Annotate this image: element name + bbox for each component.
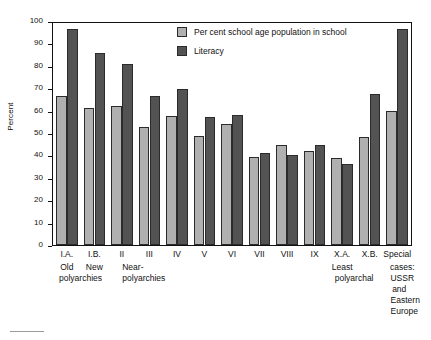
y-axis-tick-label: 20	[34, 195, 43, 204]
y-axis-tick-label: 50	[34, 128, 43, 137]
bar	[221, 124, 232, 245]
bar	[84, 108, 95, 245]
bar	[166, 116, 177, 245]
legend-swatch-series0	[177, 27, 187, 37]
legend-item: Literacy	[177, 43, 387, 59]
y-axis-tick-label: 0	[39, 240, 43, 249]
y-axis-tick-label: 10	[34, 218, 43, 227]
x-axis-tick-label: Special	[377, 249, 417, 259]
bar	[287, 155, 298, 245]
y-axis-tick-label: 100	[30, 16, 43, 25]
bar-group	[108, 23, 136, 245]
y-axis-tick-label: 30	[34, 173, 43, 182]
y-axis-tick-label: 40	[34, 150, 43, 159]
bar	[194, 136, 205, 245]
bar	[331, 158, 342, 245]
bar	[304, 151, 315, 245]
x-axis-caption: Europe	[391, 306, 418, 317]
x-axis-caption: USSR	[390, 273, 414, 284]
legend-label: Per cent school age population in school	[194, 27, 347, 37]
bar	[150, 96, 161, 245]
bar	[260, 153, 271, 245]
bar	[177, 89, 188, 246]
legend-item: Per cent school age population in school	[177, 24, 387, 40]
bar	[386, 111, 397, 245]
bar	[370, 94, 381, 245]
chart-figure: Percent 0102030405060708090100 Per cent …	[0, 0, 431, 340]
bar	[111, 106, 122, 245]
y-axis-tick-label: 60	[34, 106, 43, 115]
bar	[139, 127, 150, 245]
legend-label: Literacy	[194, 46, 224, 56]
footer-divider	[10, 331, 44, 332]
x-axis-caption: Old	[60, 262, 73, 273]
bar-group	[81, 23, 109, 245]
y-axis-tick-mark	[48, 246, 52, 247]
x-axis-caption: and	[392, 284, 406, 295]
bar	[397, 29, 408, 245]
bar	[67, 29, 78, 245]
bar	[56, 96, 67, 245]
y-axis-tick-label: 80	[34, 61, 43, 70]
bar	[342, 164, 353, 245]
bar	[315, 145, 326, 245]
bar	[249, 157, 260, 245]
x-axis-caption: polyarchies	[59, 273, 102, 284]
x-axis-caption: polyarchies	[122, 273, 165, 284]
y-axis-tick-label: 70	[34, 83, 43, 92]
x-axis-caption: Eastern	[391, 295, 420, 306]
y-axis-title: Percent	[6, 87, 15, 147]
bar-group	[53, 23, 81, 245]
bar	[205, 117, 216, 245]
x-axis-caption: New	[86, 262, 103, 273]
bar	[276, 145, 287, 245]
x-axis-ticks: I.A.I.B.IIIIIIVVVIVIIVIIIIXX.A.X.B.Speci…	[52, 249, 412, 267]
bar	[232, 115, 243, 245]
bar	[359, 137, 370, 245]
x-axis-caption: Least	[332, 262, 353, 273]
y-axis-tick-label: 90	[34, 38, 43, 47]
bar	[122, 64, 133, 245]
bar-group	[136, 23, 164, 245]
x-axis-caption: Near-	[122, 262, 143, 273]
bar	[95, 53, 106, 245]
legend-swatch-series1	[177, 46, 187, 56]
x-axis-caption: cases:	[390, 262, 415, 273]
chart-legend: Per cent school age population in school…	[177, 24, 387, 62]
bar-group	[383, 23, 411, 245]
x-axis-caption: polyarchal	[335, 273, 374, 284]
